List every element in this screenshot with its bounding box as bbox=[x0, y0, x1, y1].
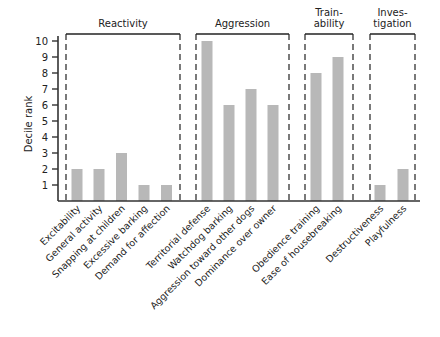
y-tick-label: 8 bbox=[42, 68, 48, 79]
group-label: Inves- bbox=[377, 7, 408, 18]
y-tick-label: 4 bbox=[42, 132, 48, 143]
bar bbox=[72, 169, 83, 201]
group-label: Reactivity bbox=[98, 18, 148, 29]
bar bbox=[224, 105, 235, 201]
bar bbox=[246, 89, 257, 201]
y-tick-label: 9 bbox=[42, 52, 48, 63]
axes bbox=[58, 36, 420, 201]
bars bbox=[72, 41, 409, 201]
bar bbox=[94, 169, 105, 201]
y-tick-label: 2 bbox=[42, 164, 48, 175]
y-tick-label: 3 bbox=[42, 148, 48, 159]
group-label: Aggression bbox=[215, 18, 270, 29]
group-label: Train- bbox=[314, 7, 343, 18]
y-tick-label: 6 bbox=[42, 100, 48, 111]
bar bbox=[311, 73, 322, 201]
bar bbox=[398, 169, 409, 201]
bar bbox=[161, 185, 172, 201]
bar bbox=[268, 105, 279, 201]
group-label: tigation bbox=[373, 18, 411, 29]
bar bbox=[139, 185, 150, 201]
group-label: ability bbox=[314, 18, 345, 29]
bar bbox=[333, 57, 344, 201]
y-ticks: 12345678910 bbox=[35, 36, 58, 191]
decile-rank-bar-chart: ReactivityAggressionTrain-abilityInves-t… bbox=[0, 0, 440, 337]
y-tick-label: 1 bbox=[42, 180, 48, 191]
x-tick-labels: ExcitabilityGeneral activitySnapping at … bbox=[38, 202, 409, 311]
bar bbox=[375, 185, 386, 201]
y-tick-label: 7 bbox=[42, 84, 48, 95]
bar bbox=[202, 41, 213, 201]
bar bbox=[116, 153, 127, 201]
y-tick-label: 10 bbox=[35, 36, 48, 47]
y-axis-title: Decile rank bbox=[23, 95, 34, 152]
y-tick-label: 5 bbox=[42, 116, 48, 127]
